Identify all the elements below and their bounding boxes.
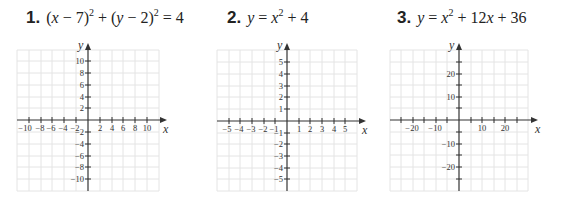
problem-3-title: 3.y = x2 + 12x + 36: [397, 8, 527, 28]
svg-text:10: 10: [478, 123, 487, 133]
svg-text:−10: −10: [18, 123, 31, 133]
coordinate-grid-1: −10−8−6−4−2246810 108642−2−4−6−8−10 x y: [0, 0, 190, 199]
svg-text:−3: −3: [274, 151, 283, 161]
svg-text:−6: −6: [46, 123, 55, 133]
problem-number: 2.: [227, 8, 241, 27]
svg-text:−5: −5: [274, 174, 283, 184]
svg-text:−2: −2: [274, 139, 283, 149]
svg-text:1: 1: [279, 104, 283, 114]
svg-text:−8: −8: [75, 162, 84, 172]
y-axis-arrow-icon: [456, 43, 462, 50]
svg-text:−1: −1: [274, 128, 283, 138]
svg-text:10: 10: [447, 92, 456, 102]
svg-text:−4: −4: [58, 123, 68, 133]
y-axis-label: y: [77, 38, 84, 52]
svg-text:3: 3: [320, 124, 324, 134]
problem-2-title: 2.y = x2 + 4: [227, 8, 308, 28]
equation: y = x2 + 12x + 36: [417, 9, 526, 26]
svg-text:2: 2: [80, 103, 84, 113]
x-axis-arrow-icon: [531, 117, 538, 123]
x-ticks: [229, 118, 345, 124]
svg-text:−4: −4: [234, 124, 244, 134]
svg-text:6: 6: [121, 123, 125, 133]
svg-text:2: 2: [308, 124, 312, 134]
grid-lines: [390, 50, 528, 191]
svg-text:2: 2: [98, 123, 102, 133]
x-tick-labels: −20−101020: [405, 123, 509, 133]
y-axis-arrow-icon: [85, 43, 91, 50]
svg-text:−5: −5: [222, 124, 231, 134]
y-axis-label: y: [276, 38, 283, 52]
svg-text:4: 4: [332, 124, 337, 134]
svg-text:−4: −4: [75, 139, 85, 149]
y-axis-label: y: [448, 38, 455, 52]
svg-text:−4: −4: [274, 163, 284, 173]
svg-text:−2: −2: [258, 124, 267, 134]
svg-text:−10: −10: [442, 139, 455, 149]
svg-text:−6: −6: [75, 151, 84, 161]
problem-1: 1.(x − 7)2 + (y − 2)2 = 4 −10−8−6−4−2246…: [0, 0, 190, 199]
svg-text:8: 8: [133, 123, 137, 133]
svg-text:10: 10: [76, 56, 85, 66]
x-axis-label: x: [162, 122, 169, 136]
svg-text:5: 5: [279, 57, 283, 67]
y-axis-arrow-icon: [284, 43, 290, 50]
problem-number: 3.: [397, 8, 411, 27]
svg-text:−8: −8: [35, 123, 44, 133]
x-axis-label: x: [361, 123, 368, 137]
svg-text:−20: −20: [405, 123, 418, 133]
svg-text:−1: −1: [269, 124, 278, 134]
svg-text:−10: −10: [428, 123, 441, 133]
svg-text:−20: −20: [442, 162, 455, 172]
svg-text:−10: −10: [71, 174, 84, 184]
y-tick-labels: 54321−1−2−3−4−5: [274, 57, 284, 184]
svg-text:3: 3: [279, 81, 283, 91]
svg-text:20: 20: [501, 123, 510, 133]
svg-text:1: 1: [297, 124, 301, 134]
grid-lines: [217, 50, 357, 191]
svg-text:10: 10: [143, 123, 152, 133]
svg-text:6: 6: [80, 80, 84, 90]
svg-text:20: 20: [447, 69, 456, 79]
svg-text:−3: −3: [246, 124, 255, 134]
x-tick-labels: −5−4−3−2−112345: [222, 124, 347, 134]
y-ticks: [456, 62, 462, 179]
x-ticks: [401, 117, 517, 123]
y-tick-labels: 2010−10−20: [442, 69, 455, 172]
svg-text:2: 2: [279, 92, 283, 102]
svg-text:5: 5: [343, 124, 347, 134]
x-axis-arrow-icon: [359, 118, 366, 124]
svg-text:8: 8: [80, 68, 84, 78]
svg-text:4: 4: [279, 69, 284, 79]
svg-text:−2: −2: [75, 127, 84, 137]
x-axis-label: x: [534, 122, 541, 136]
equation: y = x2 + 4: [247, 9, 308, 26]
y-ticks: [284, 62, 290, 179]
